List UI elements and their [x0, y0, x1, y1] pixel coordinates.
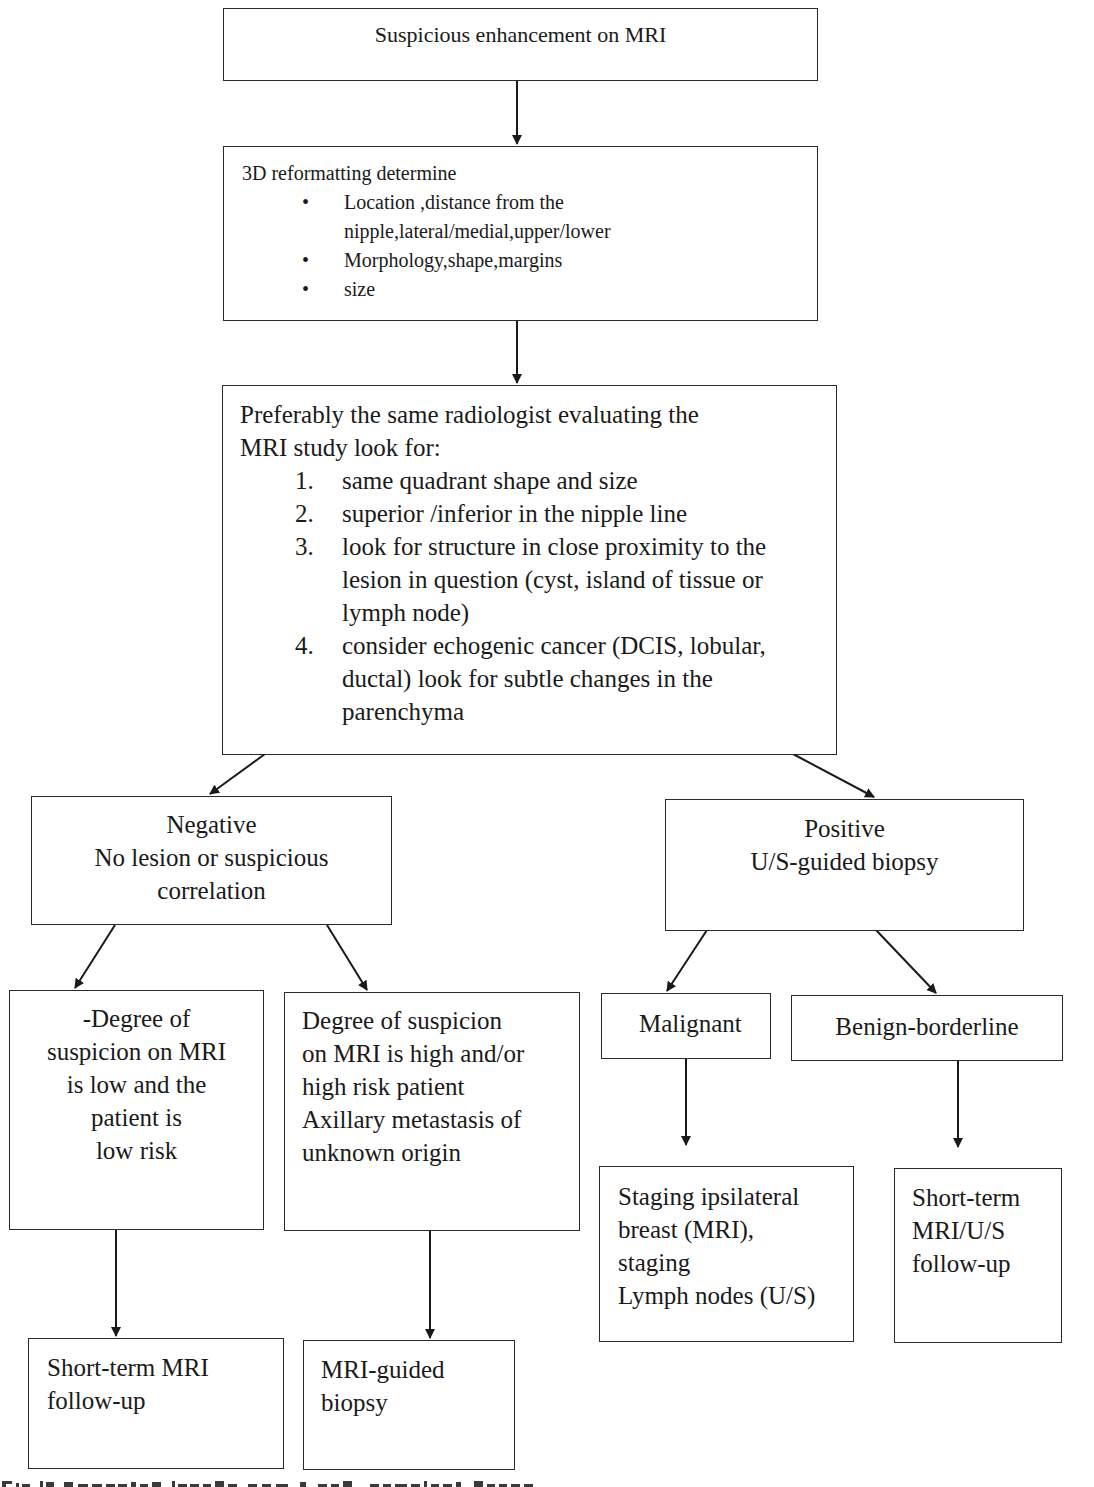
node-high-suspicion: Degree of suspicion on MRI is high and/o…: [284, 992, 580, 1231]
evaluation-numbered-list: 1. same quadrant shape and size 2. super…: [240, 464, 836, 728]
figure-caption-cropped: [0, 1474, 1094, 1487]
node-radiologist-evaluation: Preferably the same radiologist evaluati…: [222, 385, 837, 755]
arrow-negative-to-high: [327, 925, 367, 990]
node-positive: Positive U/S-guided biopsy: [665, 799, 1024, 931]
arrow-positive-to-benign: [876, 930, 936, 993]
bullet-icon: •: [302, 188, 309, 217]
cropped-caption-glyphs: [0, 1475, 700, 1487]
node-negative: Negative No lesion or suspicious correla…: [31, 796, 392, 925]
evaluation-item-4: 4. consider echogenic cancer (DCIS, lobu…: [240, 629, 836, 728]
node-benign-borderline: Benign-borderline: [791, 995, 1063, 1061]
node-malignant: Malignant: [601, 993, 771, 1059]
bullet-item-location: • Location ,distance from the nipple,lat…: [242, 188, 817, 246]
node-suspicious-enhancement: Suspicious enhancement on MRI: [223, 8, 818, 81]
evaluation-intro-line-1: Preferably the same radiologist evaluati…: [240, 398, 836, 431]
evaluation-item-2: 2. superior /inferior in the nipple line: [240, 497, 836, 530]
node-3d-reformatting-heading: 3D reformatting determine: [242, 159, 817, 188]
arrow-evaluate-to-negative: [210, 754, 265, 794]
node-suspicious-enhancement-text: Suspicious enhancement on MRI: [375, 22, 666, 47]
node-short-term-mri-followup: Short-term MRI follow-up: [28, 1338, 284, 1469]
evaluation-item-1: 1. same quadrant shape and size: [240, 464, 836, 497]
node-short-term-mri-us-followup: Short-term MRI/U/S follow-up: [894, 1168, 1062, 1343]
node-low-suspicion: -Degree of suspicion on MRI is low and t…: [9, 990, 264, 1230]
node-mri-guided-biopsy: MRI-guided biopsy: [303, 1340, 515, 1470]
bullet-item-size: • size: [242, 275, 817, 304]
bullet-icon: •: [302, 246, 309, 275]
reformatting-bullet-list: • Location ,distance from the nipple,lat…: [242, 188, 817, 304]
arrow-negative-to-low: [75, 925, 115, 988]
bullet-item-morphology: • Morphology,shape,margins: [242, 246, 817, 275]
arrow-positive-to-malignant: [667, 930, 707, 991]
node-staging: Staging ipsilateral breast (MRI), stagin…: [599, 1166, 854, 1342]
evaluation-intro-line-2: MRI study look for:: [240, 431, 836, 464]
bullet-icon: •: [302, 275, 309, 304]
evaluation-item-3: 3. look for structure in close proximity…: [240, 530, 836, 629]
arrow-evaluate-to-positive: [793, 754, 874, 797]
node-3d-reformatting: 3D reformatting determine • Location ,di…: [223, 146, 818, 321]
